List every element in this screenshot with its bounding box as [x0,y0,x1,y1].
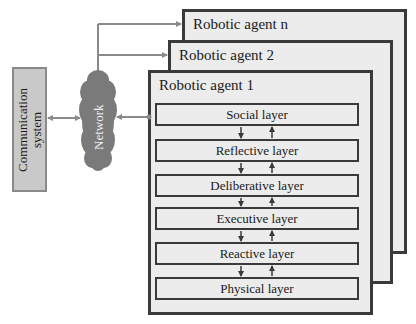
connectors-layer: Network [0,0,416,324]
layer-arrows [241,127,272,276]
network-label: Network [91,104,106,150]
network-to-agents-lines [98,24,181,72]
